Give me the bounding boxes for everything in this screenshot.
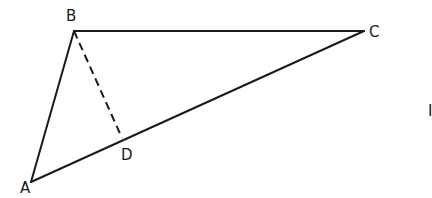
point-label-b: B — [66, 7, 76, 25]
segment-ca — [31, 31, 364, 182]
point-label-a: A — [20, 179, 31, 197]
edge-mark: I — [428, 102, 432, 120]
point-label-d: D — [121, 146, 133, 164]
triangle-diagram: A B C D I — [0, 0, 432, 198]
point-label-c: C — [369, 23, 379, 41]
segment-bd-dashed — [74, 31, 122, 138]
segment-ab — [31, 31, 74, 182]
